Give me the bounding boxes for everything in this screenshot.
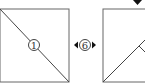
right-fold-line — [139, 46, 145, 52]
left-arrow-icon — [74, 42, 78, 49]
step-label-1: 1 — [31, 40, 37, 51]
right-square — [103, 9, 145, 82]
right-arrow-icon — [92, 42, 96, 49]
fold-diagram: 1 6 — [0, 0, 145, 83]
right-panel — [103, 0, 145, 82]
step-label-6: 6 — [82, 40, 88, 51]
down-triangle-icon — [133, 0, 142, 5]
left-panel: 1 — [0, 9, 69, 82]
connector: 6 — [74, 40, 96, 51]
right-diagonal — [103, 40, 145, 82]
